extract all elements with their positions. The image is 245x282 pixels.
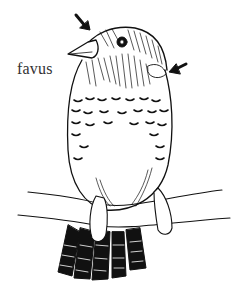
bird-illustration xyxy=(0,0,245,282)
breast-speckles xyxy=(72,98,168,160)
arrow-upper xyxy=(76,15,90,30)
beak xyxy=(68,40,98,58)
branch xyxy=(28,190,222,205)
arrow-lower xyxy=(169,64,186,74)
